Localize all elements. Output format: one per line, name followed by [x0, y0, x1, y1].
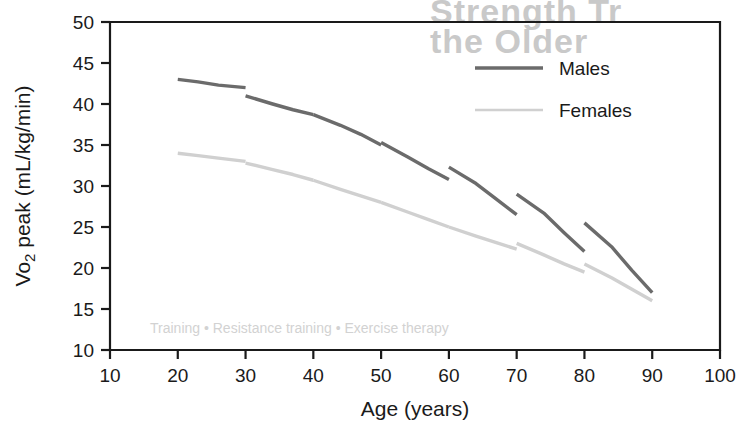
svg-text:Vo2 peak (mL/kg/min): Vo2 peak (mL/kg/min)	[11, 86, 38, 287]
series-segment	[449, 167, 517, 215]
x-tick-label: 30	[235, 365, 256, 386]
legend-item-males: Males	[475, 58, 610, 79]
series-segment	[246, 163, 314, 180]
x-tick-label: 90	[642, 365, 663, 386]
x-tick-label: 10	[99, 365, 120, 386]
legend-item-females: Females	[475, 100, 632, 121]
chart-figure: Strength Tr the Older Training • Resista…	[0, 0, 753, 443]
series-segment	[178, 153, 246, 161]
y-tick-label: 20	[73, 258, 94, 279]
y-tick-label: 25	[73, 217, 94, 238]
legend-label: Females	[559, 100, 632, 121]
y-tick-label: 30	[73, 176, 94, 197]
series-segment	[381, 143, 449, 180]
y-tick-label: 15	[73, 299, 94, 320]
plot-border	[110, 22, 720, 350]
series-segment	[246, 96, 314, 115]
series-segment	[517, 194, 585, 251]
y-axis-ticks	[101, 22, 110, 350]
x-tick-label: 100	[704, 365, 736, 386]
plot-frame	[110, 22, 720, 350]
x-tick-label: 70	[506, 365, 527, 386]
y-tick-label: 50	[73, 12, 94, 33]
y-tick-label: 10	[73, 340, 94, 361]
series-segment	[517, 243, 585, 272]
chart-legend: MalesFemales	[475, 58, 632, 121]
x-axis-title: Age (years)	[361, 397, 470, 420]
x-tick-label: 40	[303, 365, 324, 386]
series-segment	[313, 115, 381, 145]
x-tick-label: 20	[167, 365, 188, 386]
x-axis-ticks	[110, 350, 720, 359]
series-segment	[449, 227, 517, 249]
x-tick-label: 60	[438, 365, 459, 386]
x-tick-label: 80	[574, 365, 595, 386]
x-axis-tick-labels: 102030405060708090100	[99, 365, 735, 386]
series-segment	[313, 180, 381, 202]
x-tick-label: 50	[371, 365, 392, 386]
series-females	[178, 153, 652, 301]
y-tick-label: 45	[73, 53, 94, 74]
y-tick-label: 40	[73, 94, 94, 115]
y-axis-tick-labels: 101520253035404550	[73, 12, 94, 361]
y-axis-title: Vo2 peak (mL/kg/min)	[11, 86, 38, 287]
legend-label: Males	[559, 58, 610, 79]
vo2-peak-vs-age-line-chart: 102030405060708090100 101520253035404550…	[0, 0, 753, 443]
series-segment	[381, 202, 449, 227]
y-tick-label: 35	[73, 135, 94, 156]
series-segment	[178, 79, 246, 87]
